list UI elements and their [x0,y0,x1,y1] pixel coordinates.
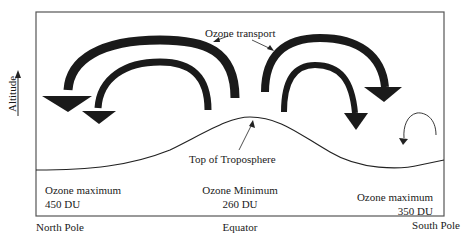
equator-ozone-name: Ozone Minimum [180,184,300,197]
south-ozone-name: Ozone maximum [340,191,433,204]
ozone-transport-label: Ozone transport [205,27,276,40]
north-ozone-name: Ozone maximum [45,184,121,197]
south-ozone-value: 350 DU [340,205,433,218]
south-pole-label: South Pole [380,219,460,232]
tropopause-label-pointer [239,120,255,150]
north-pole-label: North Pole [36,221,84,234]
equator-label: Equator [200,221,280,234]
north-ozone-value: 450 DU [45,198,80,211]
transport-arrow-south-inner [284,65,368,130]
tropopause-label: Top of Troposphere [189,153,276,166]
equator-ozone-value: 260 DU [180,198,300,211]
altitude-axis-label: Altitude [6,76,18,112]
transport-arrow-north-inner [82,62,208,124]
circulation-arrow-icon [399,113,436,145]
